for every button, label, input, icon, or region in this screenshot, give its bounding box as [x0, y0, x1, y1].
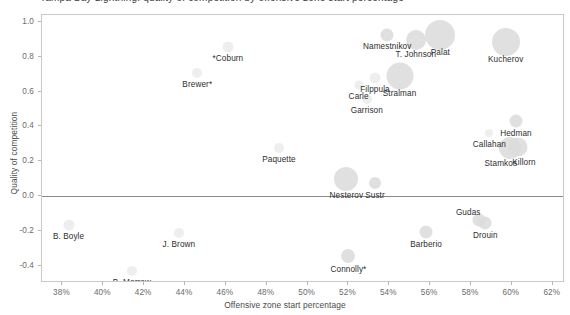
data-point-bubble	[369, 177, 381, 189]
y-tick-mark	[38, 160, 41, 161]
plot-area: *CoburnBrewer*NamestnikovT. JohnsonPalat…	[41, 14, 564, 282]
x-tick-mark	[511, 282, 512, 285]
x-tick-mark	[184, 282, 185, 285]
x-tick-label: 40%	[94, 288, 111, 297]
x-tick-label: 56%	[421, 288, 438, 297]
data-point-bubble	[274, 143, 284, 153]
y-tick-label: -0.4	[4, 260, 34, 269]
x-tick-label: 60%	[503, 288, 520, 297]
x-tick-label: 44%	[176, 288, 193, 297]
x-tick-mark	[143, 282, 144, 285]
data-point-label: Palat	[431, 48, 450, 57]
data-point-bubble	[492, 28, 520, 56]
data-point-bubble	[222, 42, 233, 53]
data-point-label: Sustr	[365, 191, 385, 200]
y-tick-label: 1.0	[4, 16, 34, 25]
x-tick-mark	[429, 282, 430, 285]
x-tick-label: 42%	[135, 288, 152, 297]
x-tick-mark	[470, 282, 471, 285]
scatter-chart: Tampa Bay Lightning: quality of competit…	[0, 0, 570, 315]
data-point-bubble	[425, 20, 455, 50]
y-tick-label: 0.8	[4, 51, 34, 60]
y-tick-mark	[38, 195, 41, 196]
x-tick-label: 52%	[339, 288, 356, 297]
y-tick-label: -0.2	[4, 225, 34, 234]
x-tick-mark	[102, 282, 103, 285]
data-point-bubble	[192, 68, 202, 78]
data-point-bubble	[509, 115, 522, 128]
data-point-label: *Coburn	[213, 54, 244, 63]
data-point-label: B. Morrow	[113, 278, 151, 282]
data-point-bubble	[485, 129, 493, 137]
x-tick-label: 38%	[53, 288, 70, 297]
x-tick-mark	[266, 282, 267, 285]
data-point-bubble	[509, 138, 528, 157]
data-point-label: Brewer*	[182, 80, 212, 89]
y-tick-mark	[38, 91, 41, 92]
y-tick-mark	[38, 265, 41, 266]
data-point-bubble	[63, 219, 74, 230]
zero-reference-line	[42, 196, 563, 197]
data-point-bubble	[420, 225, 433, 238]
x-tick-mark	[307, 282, 308, 285]
data-point-label: B. Boyle	[53, 232, 84, 241]
x-tick-label: 58%	[462, 288, 479, 297]
x-axis-title: Offensive zone start percentage	[0, 300, 570, 310]
y-axis-title: Quality of competition	[9, 88, 19, 218]
data-point-label: Barberio	[410, 240, 442, 249]
data-point-label: Killorn	[512, 158, 535, 167]
data-point-label: Nesterov	[330, 191, 364, 200]
data-point-label: Paquette	[262, 155, 296, 164]
x-tick-mark	[61, 282, 62, 285]
x-tick-label: 48%	[257, 288, 274, 297]
data-point-bubble	[127, 266, 137, 276]
data-point-label: Drouin	[473, 231, 498, 240]
y-tick-mark	[38, 125, 41, 126]
data-point-label: Garrison	[351, 106, 383, 115]
data-point-label: Stralman	[383, 89, 417, 98]
data-point-bubble	[386, 62, 413, 89]
data-point-label: J. Brown	[163, 240, 196, 249]
data-point-bubble	[174, 228, 184, 238]
y-tick-mark	[38, 230, 41, 231]
data-point-bubble	[381, 29, 394, 42]
x-tick-label: 46%	[217, 288, 234, 297]
data-point-label: Callahan	[473, 140, 506, 149]
x-tick-mark	[552, 282, 553, 285]
data-point-label: Hedman	[500, 129, 532, 138]
data-point-bubble	[370, 72, 381, 83]
data-point-label: Carle	[349, 92, 369, 101]
data-point-label: Kucherov	[488, 55, 523, 64]
data-point-bubble	[334, 167, 358, 191]
x-tick-label: 62%	[543, 288, 560, 297]
y-tick-mark	[38, 56, 41, 57]
data-point-label: Connolly*	[330, 265, 366, 274]
y-tick-mark	[38, 21, 41, 22]
chart-title: Tampa Bay Lightning: quality of competit…	[40, 0, 404, 3]
x-tick-label: 50%	[298, 288, 315, 297]
x-tick-mark	[347, 282, 348, 285]
data-point-label: Gudas	[456, 208, 481, 217]
x-tick-mark	[225, 282, 226, 285]
x-tick-label: 54%	[380, 288, 397, 297]
x-tick-mark	[388, 282, 389, 285]
data-point-bubble	[341, 249, 355, 263]
data-point-bubble	[479, 216, 492, 229]
